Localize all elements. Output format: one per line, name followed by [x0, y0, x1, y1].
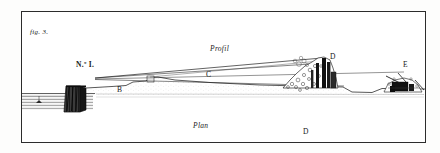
- terrain-profile: [86, 77, 425, 96]
- figure-label: fig. 3.: [30, 28, 48, 36]
- profil-label: Profil: [210, 44, 229, 53]
- engraving-plate: fig. 3. N.º I. Profil Plan B C D E D: [0, 0, 440, 153]
- point-label-b: B: [117, 85, 122, 94]
- ruin-mound-d: [283, 56, 338, 91]
- point-label-d-plan: D: [303, 127, 308, 136]
- left-tower-block: [64, 86, 86, 113]
- plan-label: Plan: [193, 121, 208, 130]
- point-label-e: E: [403, 60, 408, 69]
- point-label-d: D: [330, 52, 335, 61]
- station-label: N.º I.: [76, 60, 94, 69]
- ruin-structure-e: [384, 73, 424, 92]
- engraving-artwork: [0, 0, 440, 153]
- point-label-c: C: [206, 70, 211, 79]
